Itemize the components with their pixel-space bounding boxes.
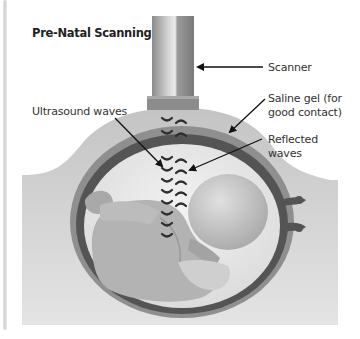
diagram-title: Pre-Natal Scanning — [32, 26, 151, 40]
label-reflected-line1: Reflected — [268, 133, 318, 146]
pre-natal-scanning-diagram — [0, 0, 360, 339]
label-saline-gel-line1: Saline gel (for — [268, 92, 342, 105]
label-reflected-line2: waves — [268, 147, 302, 160]
label-scanner: Scanner — [268, 61, 312, 74]
scanner-probe — [147, 16, 199, 110]
label-saline-gel-line2: good contact) — [268, 106, 342, 119]
label-ultrasound-waves: Ultrasound waves — [32, 105, 127, 118]
